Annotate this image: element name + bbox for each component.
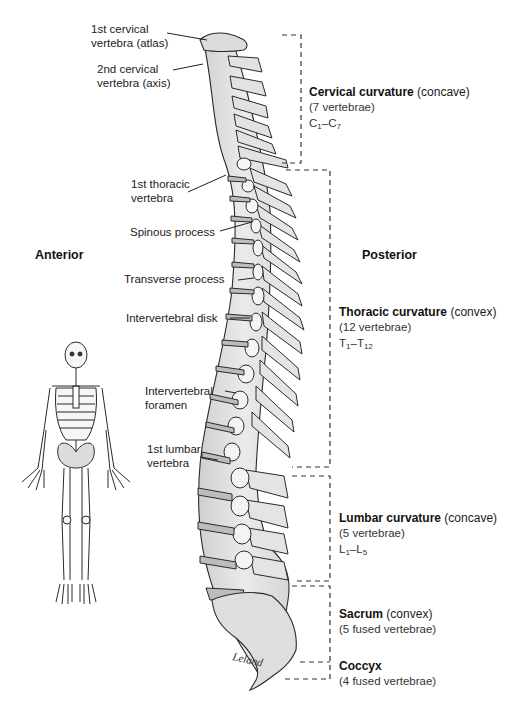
label-axis-line1: 2nd cervical <box>97 62 171 76</box>
label-first-lumbar: 1st lumbar vertebra <box>147 442 201 470</box>
label-first-thoracic: 1st thoracic vertebra <box>131 177 190 205</box>
region-cervical-range: C1–C7 <box>309 115 470 135</box>
region-sacrum-count: (5 fused vertebrae) <box>339 622 436 637</box>
bracket-lumbar <box>292 476 330 581</box>
sacrum-shape <box>212 593 296 690</box>
region-sacrum-name: Sacrum <box>339 607 383 621</box>
label-spinous-process-line1: Spinous process <box>130 225 215 239</box>
range-end: 5 <box>363 548 367 557</box>
label-intervertebral-foramen-line2: foramen <box>145 398 213 412</box>
bracket-cervical <box>282 35 301 163</box>
label-spinous-process: Spinous process <box>130 225 215 239</box>
range-start: 1 <box>317 122 321 131</box>
range-end: 12 <box>364 342 373 351</box>
region-sacrum-title: Sacrum (convex) <box>339 607 436 622</box>
region-thoracic-range: T1–T12 <box>339 335 496 355</box>
range-start: 1 <box>345 548 349 557</box>
region-lumbar-qualifier: (concave) <box>441 511 497 525</box>
posterior-label: Posterior <box>362 248 417 262</box>
region-cervical-title: Cervical curvature (concave) <box>309 85 470 100</box>
region-lumbar-title: Lumbar curvature (concave) <box>339 511 497 526</box>
full-skeleton-figure <box>22 342 130 604</box>
region-coccyx: Coccyx (4 fused vertebrae) <box>339 659 436 689</box>
range-letter: T <box>339 337 346 349</box>
region-coccyx-count: (4 fused vertebrae) <box>339 674 436 689</box>
label-intervertebral-disk: Intervertebral disk <box>126 311 217 325</box>
range-start: 1 <box>346 342 350 351</box>
region-sacrum-qualifier: (convex) <box>383 607 432 621</box>
region-thoracic-qualifier: (convex) <box>447 305 496 319</box>
region-sacrum: Sacrum (convex) (5 fused vertebrae) <box>339 607 436 637</box>
region-lumbar-name: Lumbar curvature <box>339 511 441 525</box>
range-letter: T <box>357 337 364 349</box>
region-coccyx-title: Coccyx <box>339 659 436 674</box>
region-cervical-count: (7 vertebrae) <box>309 100 470 115</box>
range-end: 7 <box>336 122 340 131</box>
region-thoracic-count: (12 vertebrae) <box>339 320 496 335</box>
label-intervertebral-foramen: Intervertebral foramen <box>145 384 213 412</box>
region-coccyx-name: Coccyx <box>339 659 382 673</box>
label-intervertebral-foramen-line1: Intervertebral <box>145 384 213 398</box>
label-first-lumbar-line1: 1st lumbar <box>147 442 201 456</box>
region-lumbar: Lumbar curvature (concave) (5 vertebrae)… <box>339 511 497 561</box>
label-axis-line2: vertebra (axis) <box>97 76 171 90</box>
label-first-thoracic-line1: 1st thoracic <box>131 177 190 191</box>
region-thoracic: Thoracic curvature (convex) (12 vertebra… <box>339 305 496 355</box>
atlas-vertebra <box>200 33 247 52</box>
label-first-thoracic-line2: vertebra <box>131 191 190 205</box>
region-thoracic-title: Thoracic curvature (convex) <box>339 305 496 320</box>
region-lumbar-range: L1–L5 <box>339 541 497 561</box>
region-cervical: Cervical curvature (concave) (7 vertebra… <box>309 85 470 135</box>
anterior-label: Anterior <box>35 248 84 262</box>
label-transverse-process-line1: Transverse process <box>124 272 225 286</box>
region-lumbar-count: (5 vertebrae) <box>339 526 497 541</box>
region-thoracic-name: Thoracic curvature <box>339 305 447 319</box>
region-cervical-name: Cervical curvature <box>309 85 414 99</box>
label-intervertebral-disk-line1: Intervertebral disk <box>126 311 217 325</box>
label-atlas-line1: 1st cervical <box>91 22 168 36</box>
label-axis: 2nd cervical vertebra (axis) <box>97 62 171 90</box>
label-transverse-process: Transverse process <box>124 272 225 286</box>
label-first-lumbar-line2: vertebra <box>147 456 201 470</box>
label-atlas-line2: vertebra (atlas) <box>91 36 168 50</box>
region-cervical-qualifier: (concave) <box>414 85 470 99</box>
label-atlas: 1st cervical vertebra (atlas) <box>91 22 168 50</box>
